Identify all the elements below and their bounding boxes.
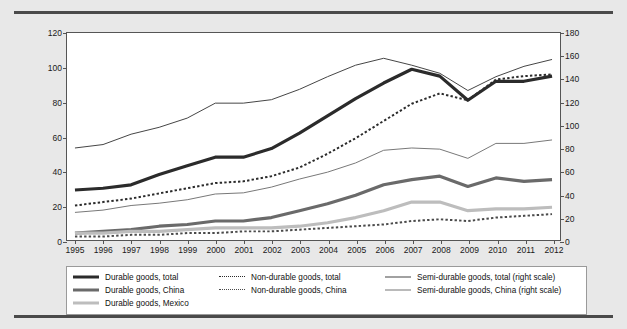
legend-item-durable-total: Durable goods, total	[73, 271, 213, 283]
y-axis-tick-right	[560, 79, 564, 80]
legend-spacer	[385, 297, 580, 309]
y-axis-tick-right	[560, 56, 564, 57]
y-axis-tick-right	[560, 172, 564, 173]
x-axis-tick	[554, 240, 555, 244]
x-axis-label: 2004	[319, 246, 338, 255]
x-axis-label: 1995	[66, 246, 85, 255]
y-axis-label-left: 20	[53, 203, 62, 212]
x-axis-tick	[413, 240, 414, 244]
legend-item-nondurable-total: Non-durable goods, total	[219, 271, 379, 283]
x-axis-label: 1997	[122, 246, 141, 255]
y-axis-label-right: 160	[565, 52, 579, 61]
y-axis-tick-left	[63, 68, 67, 69]
legend-item-semidurable-total: Semi-durable goods, total (right scale)	[385, 271, 580, 283]
x-axis-tick	[526, 240, 527, 244]
legend-label: Durable goods, Mexico	[105, 299, 189, 308]
x-axis-tick	[244, 240, 245, 244]
legend-item-durable-mexico: Durable goods, Mexico	[73, 297, 213, 309]
y-axis-tick-right	[560, 103, 564, 104]
x-axis-label: 1999	[178, 246, 197, 255]
legend-label: Durable goods, total	[105, 273, 178, 282]
x-axis-label: 2000	[206, 246, 225, 255]
y-axis-tick-right	[560, 126, 564, 127]
x-axis-label: 2010	[488, 246, 507, 255]
x-axis-tick	[75, 240, 76, 244]
y-axis-tick-left	[63, 138, 67, 139]
x-axis-label: 1996	[94, 246, 113, 255]
y-axis-label-left: 40	[53, 168, 62, 177]
x-axis-label: 2008	[432, 246, 451, 255]
x-axis-tick	[300, 240, 301, 244]
legend-label: Non-durable goods, total	[251, 273, 341, 282]
legend-label: Durable goods, China	[105, 286, 184, 295]
y-axis-tick-right	[560, 149, 564, 150]
x-axis-tick	[385, 240, 386, 244]
y-axis-label-right: 120	[565, 98, 579, 107]
y-axis-label-right: 20	[565, 215, 574, 224]
legend-label: Non-durable goods, China	[251, 286, 347, 295]
x-axis-label: 2001	[235, 246, 254, 255]
y-axis-tick-left	[63, 172, 67, 173]
y-axis-tick-right	[560, 33, 564, 34]
y-axis-tick-left	[63, 33, 67, 34]
y-axis-label-left: 100	[48, 64, 62, 73]
x-axis-tick	[131, 240, 132, 244]
x-axis-tick	[272, 240, 273, 244]
y-axis-label-right: 140	[565, 75, 579, 84]
y-axis-tick-left	[63, 242, 67, 243]
x-axis-label: 2009	[460, 246, 479, 255]
y-axis-label-left: 0	[57, 238, 62, 247]
y-axis-label-right: 100	[565, 122, 579, 131]
y-axis-label-right: 80	[565, 145, 574, 154]
x-axis-label: 1998	[150, 246, 169, 255]
chart-figure: 0204060801001200204060801001201401601801…	[14, 18, 613, 308]
legend-label: Semi-durable goods, total (right scale)	[417, 273, 555, 282]
top-rule	[14, 11, 613, 14]
x-axis-label: 2007	[404, 246, 423, 255]
y-axis-label-right: 40	[565, 191, 574, 200]
x-axis-tick	[357, 240, 358, 244]
x-axis-tick	[188, 240, 189, 244]
x-axis-label: 2003	[291, 246, 310, 255]
x-axis-label: 2002	[263, 246, 282, 255]
x-axis-label: 2006	[375, 246, 394, 255]
bottom-rule	[14, 315, 613, 318]
y-axis-label-right: 180	[565, 29, 579, 38]
x-axis-label: 2012	[545, 246, 564, 255]
series-line	[75, 140, 552, 212]
chart-lines	[67, 33, 560, 240]
y-axis-label-right: 60	[565, 168, 574, 177]
legend-spacer	[219, 297, 379, 309]
x-axis-label: 2005	[347, 246, 366, 255]
legend-item-durable-china: Durable goods, China	[73, 284, 213, 296]
legend-label: Semi-durable goods, China (right scale)	[417, 286, 561, 295]
legend-item-nondurable-china: Non-durable goods, China	[219, 284, 379, 296]
x-axis-tick	[216, 240, 217, 244]
chart-legend: Durable goods, total Non-durable goods, …	[66, 266, 587, 315]
y-axis-label-right: 0	[565, 238, 570, 247]
x-axis-tick	[498, 240, 499, 244]
figure-page: 0204060801001200204060801001201401601801…	[0, 0, 627, 329]
series-line	[75, 69, 552, 190]
y-axis-label-left: 120	[48, 29, 62, 38]
x-axis-tick	[329, 240, 330, 244]
series-line	[75, 58, 552, 148]
y-axis-tick-right	[560, 196, 564, 197]
y-axis-label-left: 80	[53, 98, 62, 107]
y-axis-tick-left	[63, 103, 67, 104]
x-axis-label: 2011	[517, 246, 535, 255]
x-axis-tick	[103, 240, 104, 244]
series-line	[75, 74, 552, 205]
x-axis-tick	[469, 240, 470, 244]
y-axis-tick-left	[63, 207, 67, 208]
plot-area: 0204060801001200204060801001201401601801…	[66, 32, 561, 241]
x-axis-tick	[441, 240, 442, 244]
y-axis-tick-right	[560, 219, 564, 220]
y-axis-tick-right	[560, 242, 564, 243]
x-axis-tick	[160, 240, 161, 244]
legend-item-semidurable-china: Semi-durable goods, China (right scale)	[385, 284, 580, 296]
y-axis-label-left: 60	[53, 133, 62, 142]
